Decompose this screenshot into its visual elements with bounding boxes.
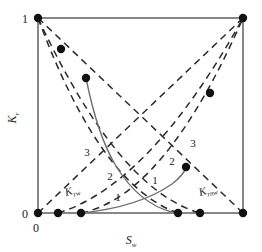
data-point	[239, 209, 247, 217]
data-point	[206, 89, 214, 97]
data-point	[239, 14, 247, 22]
krnw-family-label-sub: rnw	[206, 188, 219, 199]
curve-number: 3	[190, 137, 196, 149]
data-point	[77, 209, 85, 217]
data-point	[82, 74, 90, 82]
data-point	[174, 209, 182, 217]
y-tick-top: 1	[22, 12, 28, 26]
curve-number: 2	[169, 155, 175, 167]
data-point	[57, 45, 65, 53]
krw-curve-2-dashed	[58, 18, 243, 213]
x-tick-origin: 0	[33, 221, 39, 235]
curve-number: 3	[84, 146, 90, 158]
krw-family-label-sub: rw	[72, 189, 82, 199]
data-point	[34, 14, 42, 22]
chart-svg: 1 0 0 Kr Sw Krw Krnw 3 2 1 1 2 3	[0, 0, 262, 252]
x-axis-label-sub: w	[132, 241, 137, 249]
krw-measured-solid	[81, 167, 186, 213]
data-point	[196, 209, 204, 217]
svg-text:Kr: Kr	[5, 112, 21, 124]
curve-number: 1	[152, 174, 158, 186]
data-point	[182, 163, 190, 171]
y-axis-label: Kr	[5, 112, 21, 124]
svg-text:Krw: Krw	[62, 182, 82, 201]
curve-number: 1	[115, 191, 121, 203]
data-point	[54, 209, 62, 217]
relative-permeability-chart: 1 0 0 Kr Sw Krw Krnw 3 2 1 1 2 3	[0, 0, 262, 252]
y-axis-label-sub: r	[13, 112, 21, 115]
krw-curve-3-dashed	[81, 18, 243, 213]
curve-number: 2	[107, 170, 113, 182]
x-axis-label: Sw	[126, 233, 137, 249]
krw-family-label: Krw	[62, 182, 82, 201]
krnw-family-label: Krnw	[196, 181, 219, 201]
svg-text:Krnw: Krnw	[196, 181, 219, 201]
y-tick-bottom: 0	[22, 207, 28, 221]
data-point	[34, 209, 42, 217]
